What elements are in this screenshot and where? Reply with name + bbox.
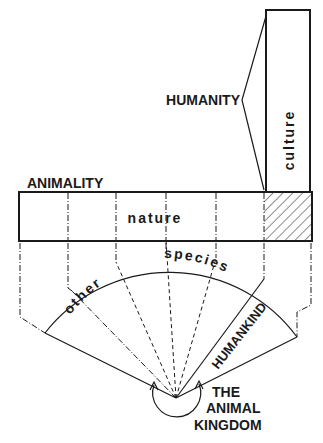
animal-kingdom-line3: KINGDOM [194,417,262,433]
animality-label: ANIMALITY [27,175,104,191]
humankind-label: HUMANKIND [209,299,270,371]
animal-kingdom-line2: ANIMAL [206,400,261,416]
humanity-bracket [242,16,266,190]
curved-arrow-icon [150,381,203,417]
species-label: species [164,245,233,276]
nature-label: nature [128,210,183,226]
humanity-label: HUMANITY [166,92,241,108]
other-label: other [60,274,104,317]
culture-label: culture [281,110,297,171]
animal-kingdom-line1: THE [212,384,240,400]
animal-kingdom-label: THE ANIMAL KINGDOM [194,384,262,433]
culture-box: culture [266,10,310,192]
animality-humanity-diagram: culture HUMANITY ANIMALITY nature [0,0,323,443]
hatched-humanity-overlap [264,192,312,241]
